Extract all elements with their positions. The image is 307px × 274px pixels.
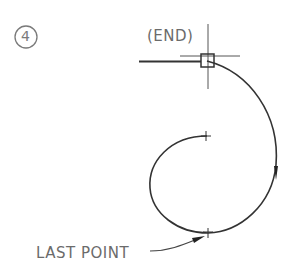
large-arc: [207, 61, 276, 233]
last-point-label: LAST POINT: [36, 244, 129, 262]
small-arc: [150, 136, 208, 233]
step-number: 4: [21, 28, 30, 44]
leader-line: [150, 238, 200, 251]
end-label: (END): [147, 27, 193, 45]
leader-arrow-icon: [192, 236, 205, 243]
